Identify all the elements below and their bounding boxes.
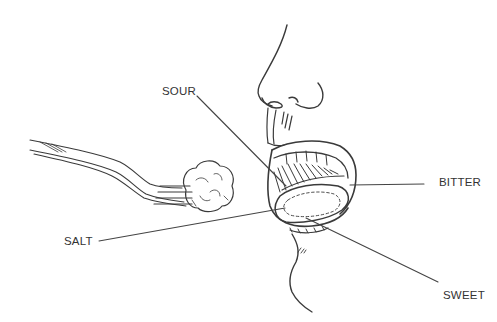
label-bitter: BITTER xyxy=(439,177,481,189)
label-salt: SALT xyxy=(64,236,93,248)
leader-line-bitter xyxy=(350,184,424,185)
leader-line-salt xyxy=(99,208,285,241)
upper-lip xyxy=(267,108,292,146)
leader-line-sour xyxy=(197,96,286,186)
face-and-fork-sketch xyxy=(0,0,497,322)
taste-diagram: SOUR BITTER SALT SWEET xyxy=(0,0,497,322)
nose-outline xyxy=(258,25,323,108)
fork xyxy=(30,140,192,206)
label-sour: SOUR xyxy=(162,86,196,98)
label-sweet: SWEET xyxy=(443,290,485,302)
chin-outline xyxy=(290,234,312,312)
leader-line-sweet xyxy=(306,218,438,282)
